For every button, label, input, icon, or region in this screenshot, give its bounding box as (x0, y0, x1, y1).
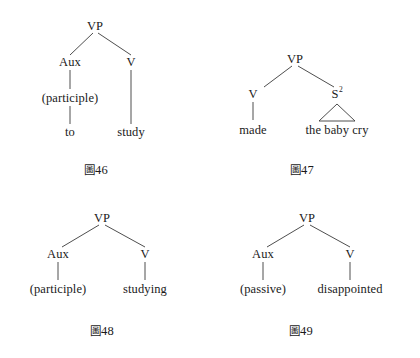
terminal-aux-feature-fig-46: (participle) (42, 92, 99, 105)
node-right-child-superscript-fig-47: 2 (339, 85, 343, 94)
node-right-child-fig-48: V (140, 248, 149, 261)
node-root-fig-46: VP (87, 20, 103, 33)
figure-caption-fig-46: 圖46 (84, 163, 108, 177)
node-root-fig-47: VP (287, 53, 303, 66)
figure-caption-number-fig-46: 46 (95, 163, 108, 177)
terminal-verb-word-fig-46: study (117, 126, 145, 139)
figure-caption-number-fig-48: 48 (101, 324, 114, 338)
terminal-aux-feature-fig-49: (passive) (240, 283, 286, 296)
terminal-aux-feature-fig-48: (participle) (30, 283, 87, 296)
figure-caption-fig-49: 圖49 (289, 324, 313, 338)
node-left-child-fig-46: Aux (59, 56, 81, 69)
node-root-fig-49: VP (299, 212, 315, 225)
node-right-child-fig-46: V (126, 56, 135, 69)
node-left-child-fig-49: Aux (252, 248, 274, 261)
node-right-child-base-fig-47: S (332, 87, 339, 101)
figure-sheet: VP Aux V (participle) to study 圖46 VP V … (0, 0, 420, 358)
tree-diagram-fig-46: VP Aux V (participle) to study 圖46 (0, 0, 210, 190)
node-left-child-fig-48: Aux (47, 248, 69, 261)
figure-caption-number-fig-47: 47 (301, 163, 314, 177)
terminal-aux-word-fig-46: to (65, 126, 75, 139)
figure-caption-fig-47: 圖47 (290, 163, 314, 177)
tree-branches-fig-47 (210, 0, 420, 190)
terminal-verb-word-fig-48: studying (123, 283, 167, 296)
tree-branches-fig-46 (0, 0, 210, 190)
node-right-child-fig-47: S2 (332, 88, 343, 101)
node-left-child-fig-47: V (248, 88, 257, 101)
figure-caption-mark-fig-49: 圖 (289, 324, 300, 338)
figure-caption-mark-fig-46: 圖 (84, 163, 95, 177)
node-root-fig-48: VP (94, 212, 110, 225)
figure-caption-fig-48: 圖48 (90, 324, 114, 338)
tree-diagram-fig-48: VP Aux V (participle) studying 圖48 (0, 190, 210, 358)
tree-diagram-fig-47: VP V S2 made the baby cry 圖47 (210, 0, 420, 190)
terminal-verb-word-fig-47: made (239, 124, 266, 137)
terminal-verb-word-fig-49: disappointed (317, 283, 382, 296)
figure-caption-number-fig-49: 49 (300, 324, 313, 338)
tree-diagram-fig-49: VP Aux V (passive) disappointed 圖49 (210, 190, 420, 358)
node-right-child-fig-49: V (345, 248, 354, 261)
terminal-clause-phrase-fig-47: the baby cry (306, 124, 369, 137)
figure-caption-mark-fig-48: 圖 (90, 324, 101, 338)
figure-caption-mark-fig-47: 圖 (290, 163, 301, 177)
